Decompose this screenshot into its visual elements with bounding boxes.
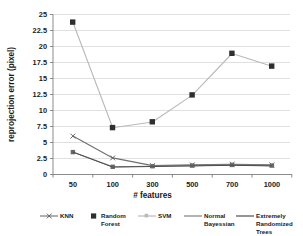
random-forest-marker (110, 125, 115, 130)
x-tick-label: 50 (69, 180, 77, 189)
random-forest-marker (70, 19, 75, 24)
x-tick-label: 500 (186, 180, 198, 189)
x-tick-label: 1000 (264, 180, 280, 189)
y-tick-label: 22.5 (33, 26, 47, 35)
chart-background (0, 0, 303, 236)
y-tick-label: 15 (39, 74, 47, 83)
random-forest-marker (269, 63, 274, 68)
legend-marker-random-forest-square-icon (91, 213, 96, 218)
x-tick-label: 300 (146, 180, 158, 189)
y-tick-label: 25 (39, 10, 47, 19)
legend-label-normal-bayessian-line2: Bayessian (204, 220, 235, 227)
legend-label-extremely-randomized-trees-line3: Trees (256, 228, 273, 235)
legend-label-knn: KNN (60, 212, 74, 219)
y-tick-label: 10 (39, 106, 47, 115)
y-tick-label: 5 (43, 138, 47, 147)
y-tick-label: 17.5 (33, 58, 47, 67)
legend-label-normal-bayessian: Normal (204, 212, 226, 219)
random-forest-marker (189, 92, 194, 97)
legend-label-svm: SVM (158, 212, 171, 219)
chart-figure: 25 22.5 20 17.5 15 12.5 10 7.5 5 2.5 0 5… (0, 0, 303, 236)
y-tick-label: 12.5 (33, 90, 47, 99)
reprojection-error-line-chart: 25 22.5 20 17.5 15 12.5 10 7.5 5 2.5 0 5… (0, 0, 303, 236)
x-tick-label: 700 (226, 180, 238, 189)
y-axis-title: reprojection error (pixel) (7, 47, 16, 142)
y-tick-label: 0 (43, 170, 47, 179)
x-axis-title: # features (133, 191, 172, 200)
x-tick-label: 100 (107, 180, 119, 189)
legend-label-extremely-randomized-trees: Extremely (256, 212, 286, 219)
random-forest-marker (150, 119, 155, 124)
legend-label-random-forest-line2: Forest (101, 220, 120, 227)
legend-marker-svm-square-icon (145, 214, 149, 218)
legend-label-random-forest: Random (101, 212, 126, 219)
random-forest-marker (229, 51, 234, 56)
y-tick-label: 20 (39, 42, 47, 51)
y-tick-label: 2.5 (37, 154, 47, 163)
y-tick-label: 7.5 (37, 122, 47, 131)
legend-label-extremely-randomized-trees-line2: Randomized (256, 220, 293, 227)
